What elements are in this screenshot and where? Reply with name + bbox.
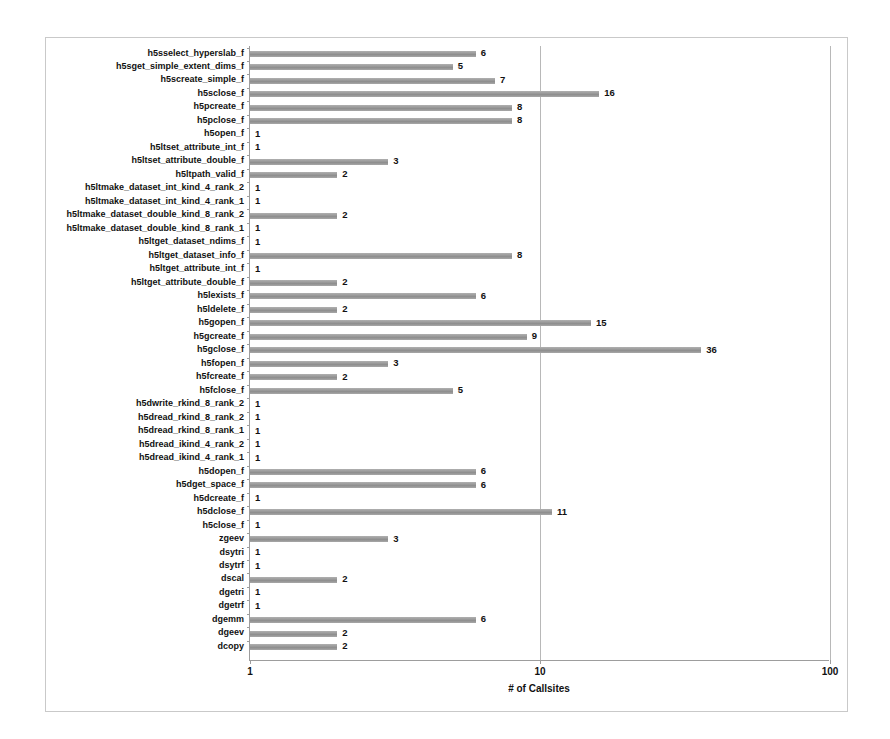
y-axis-category-label: h5ltmake_dataset_int_kind_4_rank_1 [85,195,244,208]
chart-bar-row: h5ltmake_dataset_double_kind_8_rank_22 [250,209,829,222]
chart-bar [250,293,476,299]
y-axis-tick [247,209,250,210]
y-axis-category-label: h5sget_simple_extent_dims_f [116,60,244,73]
chart-bar [250,388,453,394]
y-axis-category-label: h5ltget_dataset_info_f [148,249,244,262]
y-axis-tick [247,452,250,453]
bar-value-label: 1 [255,559,260,572]
bar-value-label: 1 [255,221,260,234]
plot-area: 110100h5sselect_hyperslab_f6h5sget_simpl… [249,46,829,661]
y-axis-category-label: h5dread_ikind_4_rank_1 [139,451,244,464]
chart-bar-row: h5ltset_attribute_int_f1 [250,142,829,155]
bar-value-label: 36 [706,343,717,356]
y-axis-tick [247,520,250,521]
y-axis-category-label: dgetrf [219,599,245,612]
y-axis-category-label: h5dread_rkind_8_rank_1 [138,424,244,437]
x-axis-tick [830,660,831,664]
chart-bar-row: zgeev3 [250,533,829,546]
y-axis-tick [247,439,250,440]
y-axis-category-label: h5pcreate_f [193,100,244,113]
chart-bar-row: h5ltmake_dataset_double_kind_8_rank_11 [250,223,829,236]
y-axis-category-label: h5dclose_f [197,505,244,518]
y-axis-tick [247,412,250,413]
y-axis-tick [247,614,250,615]
bar-value-label: 8 [517,248,522,261]
y-axis-category-label: dcopy [217,640,244,653]
y-axis-tick [247,385,250,386]
y-axis-category-label: h5fclose_f [199,384,244,397]
y-axis-tick [247,466,250,467]
chart-bar-row: h5dwrite_rkind_8_rank_21 [250,398,829,411]
chart-bar-row: dcopy2 [250,641,829,654]
y-axis-tick [247,358,250,359]
y-axis-tick [247,493,250,494]
y-axis-category-label: h5ltmake_dataset_double_kind_8_rank_1 [66,222,244,235]
x-axis-tick-label: 10 [534,666,545,677]
chart-bar [250,320,591,326]
y-axis-tick [247,88,250,89]
y-axis-tick [247,425,250,426]
chart-bar [250,51,476,57]
chart-bar-row: h5fopen_f3 [250,358,829,371]
bar-value-label: 7 [500,73,505,86]
y-axis-category-label: h5dread_rkind_8_rank_2 [138,411,244,424]
y-axis-category-label: dgemm [212,613,244,626]
chart-bar-row: h5dopen_f6 [250,466,829,479]
y-axis-tick [247,101,250,102]
y-axis-tick [247,48,250,49]
y-axis-category-label: h5lexists_f [197,289,244,302]
chart-bar-row: h5ltget_attribute_double_f2 [250,277,829,290]
chart-bar-row: dgetri1 [250,587,829,600]
y-axis-tick [247,479,250,480]
chart-bar [250,172,337,178]
bar-value-label: 8 [517,100,522,113]
bar-value-label: 16 [604,86,615,99]
y-axis-category-label: dgeev [218,626,244,639]
y-axis-tick [247,573,250,574]
y-axis-category-label: h5dcreate_f [193,492,244,505]
y-axis-category-label: h5gclose_f [197,343,244,356]
y-axis-tick [247,560,250,561]
chart-bar-row: h5gclose_f36 [250,344,829,357]
bar-value-label: 6 [481,46,486,59]
chart-bar-row: h5sclose_f16 [250,88,829,101]
chart-bar-row: h5pcreate_f8 [250,101,829,114]
y-axis-tick [247,128,250,129]
bar-value-label: 6 [481,478,486,491]
chart-figure: 110100h5sselect_hyperslab_f6h5sget_simpl… [45,37,848,712]
chart-bar [250,361,388,367]
y-axis-category-label: h5ltget_attribute_int_f [149,262,244,275]
chart-bar-row: h5dcreate_f1 [250,493,829,506]
chart-bar-row: dsytri1 [250,547,829,560]
chart-bar [250,617,476,623]
chart-bar-row: h5dclose_f11 [250,506,829,519]
chart-bar-row: h5ltpath_valid_f2 [250,169,829,182]
chart-bar-row: h5gopen_f15 [250,317,829,330]
chart-bar [250,644,337,650]
y-axis-tick [247,263,250,264]
y-axis-category-label: h5dopen_f [198,465,244,478]
bar-value-label: 1 [255,410,260,423]
bar-value-label: 2 [342,275,347,288]
bar-value-label: 1 [255,397,260,410]
y-axis-tick [247,547,250,548]
chart-bar-row: h5dget_space_f6 [250,479,829,492]
chart-bar-row: h5gcreate_f9 [250,331,829,344]
chart-bar-row: h5ltget_attribute_int_f1 [250,263,829,276]
y-axis-category-label: h5dwrite_rkind_8_rank_2 [136,397,244,410]
y-axis-category-label: dsytri [219,546,244,559]
y-axis-category-label: h5dread_ikind_4_rank_2 [139,438,244,451]
y-axis-category-label: h5screate_simple_f [160,73,244,86]
chart-bar [250,374,337,380]
chart-bar-row: h5fcreate_f2 [250,371,829,384]
chart-bar-row: h5screate_simple_f7 [250,74,829,87]
chart-bar [250,105,512,111]
chart-bar-row: h5pclose_f8 [250,115,829,128]
y-axis-tick [247,277,250,278]
y-axis-tick [247,115,250,116]
bar-value-label: 1 [255,491,260,504]
y-axis-category-label: h5close_f [202,519,244,532]
chart-bar-row: h5ldelete_f2 [250,304,829,317]
bar-value-label: 5 [458,383,463,396]
y-axis-tick [247,398,250,399]
